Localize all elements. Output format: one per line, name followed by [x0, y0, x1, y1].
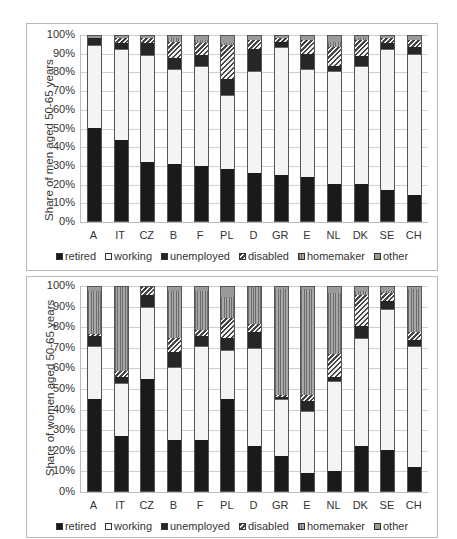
segment-working	[88, 346, 101, 399]
segment-disabled	[195, 43, 208, 54]
legend-label: other	[383, 250, 408, 262]
legend-item-homemaker: homemaker	[298, 250, 365, 262]
segment-unemployed	[408, 47, 421, 54]
x-tick-label: CZ	[134, 499, 160, 511]
segment-homemaker	[408, 289, 421, 332]
segment-unemployed	[195, 336, 208, 346]
segment-homemaker	[115, 287, 128, 371]
x-tick-label: PL	[214, 229, 240, 241]
x-tick-label: PL	[214, 499, 240, 511]
legend-item-retired: retired	[56, 250, 96, 262]
women-chart-panel: Share of women aged 50-65 years 0%10%20%…	[26, 276, 438, 538]
plot-area	[80, 286, 428, 493]
bar-it	[114, 35, 129, 222]
bar-a	[87, 286, 102, 492]
segment-retired	[168, 164, 181, 221]
bar-f	[194, 286, 209, 492]
bar-f	[194, 35, 209, 222]
legend-item-disabled: disabled	[239, 520, 289, 532]
segment-retired	[328, 184, 341, 221]
y-tick-label: 20%	[39, 178, 75, 190]
x-tick-label: IT	[107, 499, 133, 511]
segment-disabled	[168, 338, 181, 352]
bar-a	[87, 35, 102, 222]
segment-unemployed	[301, 54, 314, 69]
bar-dk	[354, 35, 369, 222]
clipped-heading-text	[0, 0, 457, 2]
y-tick-label: 80%	[39, 320, 75, 332]
y-tick-label: 90%	[39, 300, 75, 312]
homemaker-swatch-icon	[298, 253, 305, 260]
legend-label: working	[114, 250, 152, 262]
segment-disabled	[408, 40, 421, 47]
segment-homemaker	[168, 291, 181, 338]
segment-retired	[141, 162, 154, 221]
segment-disabled	[248, 324, 261, 332]
bar-cz	[140, 286, 155, 492]
segment-working	[408, 54, 421, 195]
legend-label: unemployed	[170, 520, 230, 532]
bar-ch	[407, 35, 422, 222]
x-tick-label: D	[241, 499, 267, 511]
y-tick-label: 10%	[39, 196, 75, 208]
segment-homemaker	[248, 287, 261, 324]
segment-unemployed	[221, 338, 234, 350]
bar-nl	[327, 286, 342, 492]
y-tick-label: 80%	[39, 65, 75, 77]
legend-label: retired	[65, 250, 96, 262]
segment-homemaker	[88, 291, 101, 334]
men-chart-panel: Share of men aged 50-65 years 0%10%20%30…	[26, 23, 438, 271]
legend-item-working: working	[105, 520, 152, 532]
bar-d	[247, 35, 262, 222]
segment-working	[195, 346, 208, 440]
legend-label: homemaker	[307, 250, 365, 262]
segment-retired	[88, 399, 101, 491]
segment-disabled	[381, 293, 394, 301]
segment-other	[221, 36, 234, 43]
bar-cz	[140, 35, 155, 222]
x-tick-label: SE	[374, 229, 400, 241]
segment-disabled	[221, 45, 234, 78]
segment-working	[301, 411, 314, 472]
x-tick-label: B	[160, 229, 186, 241]
x-tick-label: GR	[267, 499, 293, 511]
x-tick-label: F	[187, 229, 213, 241]
x-tick-label: E	[294, 229, 320, 241]
retired-swatch-icon	[56, 523, 63, 530]
segment-unemployed	[355, 56, 368, 65]
bar-se	[380, 286, 395, 492]
segment-disabled	[328, 354, 341, 376]
segment-working	[88, 45, 101, 128]
bar-pl	[220, 286, 235, 492]
segment-disabled	[328, 47, 341, 65]
segment-retired	[355, 446, 368, 491]
x-tick-label: NL	[321, 229, 347, 241]
x-tick-label: DK	[347, 229, 373, 241]
segment-homemaker	[221, 297, 234, 317]
x-tick-label: GR	[267, 229, 293, 241]
segment-homemaker	[328, 293, 341, 354]
segment-unemployed	[248, 332, 261, 348]
legend-label: other	[383, 520, 408, 532]
bar-gr	[274, 286, 289, 492]
y-tick-label: 0%	[39, 485, 75, 497]
segment-disabled	[408, 332, 421, 340]
x-tick-label: CH	[401, 499, 427, 511]
other-swatch-icon	[374, 253, 381, 260]
segment-working	[195, 66, 208, 166]
segment-disabled	[221, 318, 234, 338]
bar-b	[167, 286, 182, 492]
x-tick-label: NL	[321, 499, 347, 511]
x-tick-label: DK	[347, 499, 373, 511]
segment-other	[221, 287, 234, 297]
x-tick-label: A	[80, 229, 106, 241]
disabled-swatch-icon	[239, 523, 246, 530]
segment-retired	[301, 177, 314, 221]
legend-label: unemployed	[170, 250, 230, 262]
segment-working	[408, 346, 421, 466]
segment-disabled	[355, 295, 368, 326]
y-tick-label: 70%	[39, 84, 75, 96]
segment-working	[248, 348, 261, 446]
bar-b	[167, 35, 182, 222]
segment-working	[381, 309, 394, 450]
